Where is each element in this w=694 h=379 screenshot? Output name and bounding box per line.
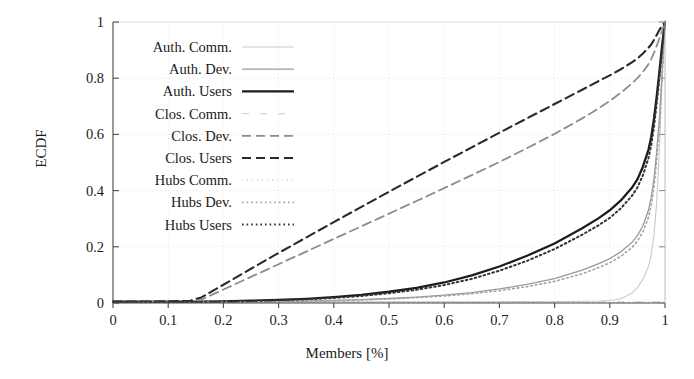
x-tick-label: 0.5 [380,312,398,328]
x-tick-label: 0.8 [546,312,564,328]
y-tick-label: 0.4 [86,183,105,199]
y-tick-label: 0.2 [86,239,104,255]
y-tick-label: 0.6 [86,126,104,142]
y-tick-label: 1 [97,14,104,30]
legend-label: Auth. Users [163,83,233,99]
x-tick-label: 0.3 [270,312,288,328]
y-tick-label: 0 [97,295,104,311]
x-tick-label: 0.9 [601,312,619,328]
y-axis-label: ECDF [33,99,50,199]
figure: 00.10.20.30.40.50.60.70.80.91 00.20.40.6… [0,0,694,379]
legend-label: Hubs Comm. [155,172,232,188]
ecdf-chart: 00.10.20.30.40.50.60.70.80.91 00.20.40.6… [0,0,694,379]
x-tick-label: 0.2 [214,312,232,328]
legend-label: Auth. Dev. [169,61,232,77]
legend: Auth. Comm.Auth. Dev.Auth. UsersClos. Co… [153,39,294,233]
x-tick-label: 0.7 [490,312,508,328]
legend-label: Auth. Comm. [153,39,232,55]
x-axis-ticks: 00.10.20.30.40.50.60.70.80.91 [109,303,668,328]
x-tick-label: 0.4 [325,312,344,328]
x-axis-label: Members [%] [0,345,694,362]
legend-label: Hubs Dev. [171,194,232,210]
x-tick-label: 0.1 [159,312,177,328]
x-tick-label: 0.6 [435,312,453,328]
legend-label: Clos. Comm. [155,106,232,122]
legend-label: Clos. Users [165,150,232,166]
legend-label: Hubs Users [165,217,233,233]
x-tick-label: 1 [661,312,668,328]
legend-label: Clos. Dev. [171,128,232,144]
x-tick-label: 0 [109,312,116,328]
y-tick-label: 0.8 [86,70,104,86]
